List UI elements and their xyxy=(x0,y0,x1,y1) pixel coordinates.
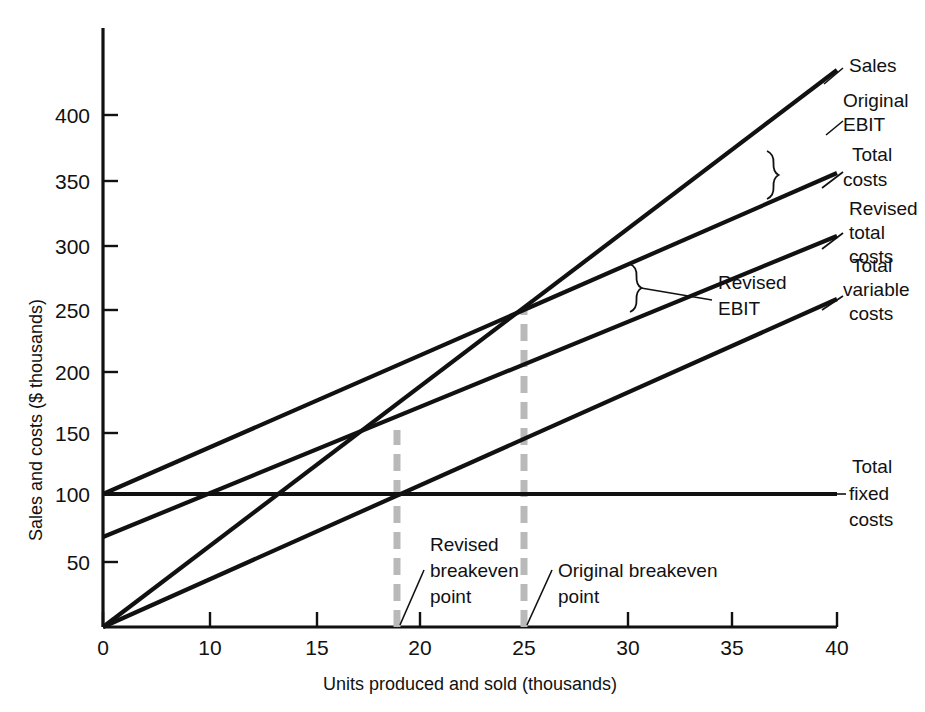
annotation-revised-ebit: Revised EBIT xyxy=(641,272,787,319)
series-label-revised-total-costs-line2: total xyxy=(849,222,885,243)
annotation-revised-breakeven-line3: point xyxy=(430,586,472,607)
x-tick-label-10: 10 xyxy=(198,636,221,659)
series-label-total-fixed-costs-line1: Total xyxy=(852,456,892,477)
y-tick-label-100: 100 xyxy=(55,483,90,506)
series-label-total-variable-costs-line2: variable xyxy=(843,279,910,300)
series-label-original-ebit-line2: EBIT xyxy=(843,114,886,135)
series-label-total-variable-costs-line3: costs xyxy=(849,303,893,324)
y-tick-label-250: 250 xyxy=(55,299,90,322)
series-label-total-costs: Total costs xyxy=(822,144,892,190)
annotation-revised-ebit-line2: EBIT xyxy=(718,298,761,319)
annotation-revised-ebit-line1: Revised xyxy=(718,272,787,293)
series-label-total-variable-costs-line1: Total xyxy=(852,255,892,276)
x-tick-label-30: 30 xyxy=(616,636,639,659)
annotation-revised-breakeven-line2: breakeven xyxy=(430,560,519,581)
y-tick-label-300: 300 xyxy=(55,235,90,258)
x-tick-label-0: 0 xyxy=(97,636,109,659)
x-axis-ticks xyxy=(103,612,837,627)
original-ebit-brace xyxy=(767,151,779,199)
series-label-total-costs-line2: costs xyxy=(843,169,887,190)
annotation-revised-breakeven-line1: Revised xyxy=(430,534,499,555)
series-label-total-variable-costs: Total variable costs xyxy=(822,255,910,324)
series-total-costs-line xyxy=(103,173,837,494)
annotation-original-breakeven-line1: Original breakeven xyxy=(558,560,717,581)
y-tick-label-200: 200 xyxy=(55,361,90,384)
chart-canvas: 400 350 300 250 200 150 100 50 0 10 15 2… xyxy=(0,0,925,712)
series-label-total-fixed-costs-line3: costs xyxy=(849,509,893,530)
y-tick-label-150: 150 xyxy=(55,422,90,445)
x-tick-label-35: 35 xyxy=(720,636,743,659)
y-tick-label-400: 400 xyxy=(55,104,90,127)
x-axis-title: Units produced and sold (thousands) xyxy=(323,674,617,694)
annotation-original-breakeven: Original breakeven point xyxy=(527,560,717,625)
y-axis-title: Sales and costs ($ thousands) xyxy=(26,299,46,541)
series-label-total-costs-line1: Total xyxy=(852,144,892,165)
y-tick-label-50: 50 xyxy=(67,551,90,574)
series-label-original-ebit-line1: Original xyxy=(843,90,908,111)
y-tick-label-350: 350 xyxy=(55,170,90,193)
annotation-original-breakeven-line2: point xyxy=(558,586,600,607)
x-tick-labels: 0 10 15 20 25 30 35 40 xyxy=(97,636,849,659)
x-tick-label-40: 40 xyxy=(825,636,848,659)
breakeven-chart: 400 350 300 250 200 150 100 50 0 10 15 2… xyxy=(0,0,925,712)
y-tick-labels: 400 350 300 250 200 150 100 50 xyxy=(55,104,90,574)
annotation-revised-breakeven: Revised breakeven point xyxy=(400,534,519,625)
x-tick-label-15: 15 xyxy=(305,636,328,659)
series-label-total-fixed-costs-line2: fixed xyxy=(849,483,889,504)
x-tick-label-20: 20 xyxy=(408,636,431,659)
x-tick-label-25: 25 xyxy=(512,636,535,659)
revised-ebit-brace xyxy=(630,264,642,312)
series-label-original-ebit: Original EBIT xyxy=(826,90,908,135)
series-label-sales-text: Sales xyxy=(849,55,897,76)
series-label-revised-total-costs-line1: Revised xyxy=(849,198,918,219)
